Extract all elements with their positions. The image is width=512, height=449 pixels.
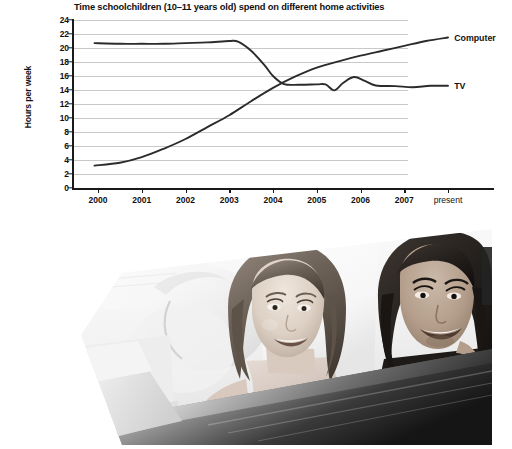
series-label-computer: Computer xyxy=(454,33,496,43)
photo-two-girls-at-screen xyxy=(78,229,492,445)
figure-chart-and-photo: Time schoolchildren (10–11 years old) sp… xyxy=(0,0,512,449)
series-lines xyxy=(0,0,512,215)
series-line-computer xyxy=(95,38,449,166)
series-label-tv: TV xyxy=(454,81,465,91)
line-chart: Time schoolchildren (10–11 years old) sp… xyxy=(0,0,512,215)
